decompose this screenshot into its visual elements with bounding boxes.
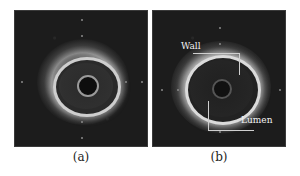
calibration-tick [219,131,221,133]
wall-label: Wall [181,41,201,51]
calibration-tick [219,43,221,45]
calibration-tick [81,19,83,21]
calibration-tick [81,121,83,123]
calibration-tick [81,35,83,37]
ivus-image-panel-a [14,10,148,147]
calibration-tick [177,89,179,91]
caption-b: (b) [152,150,286,164]
calibration-tick [21,81,23,83]
lumen-leader-line [208,130,254,131]
calibration-tick [125,81,127,83]
calibration-tick [161,89,163,91]
calibration-tick [81,137,83,139]
lumen-label: Lumen [241,115,272,125]
caption-a: (a) [14,150,148,164]
catheter-ring [212,79,232,99]
calibration-tick [219,27,221,29]
ivus-image-panel-b: Wall Lumen [152,10,286,147]
wall-leader-line [193,53,239,54]
calibration-tick [279,89,281,91]
calibration-tick [141,81,143,83]
wall-leader-line [239,53,240,75]
catheter-ring [77,75,99,97]
lumen-leader-line [208,101,209,131]
